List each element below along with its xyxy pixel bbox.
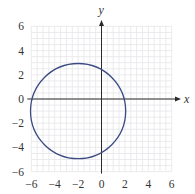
x-tick-label: −2 — [72, 178, 84, 190]
coordinate-plane-chart: −6−4−20246 −6−4−20246 x y — [0, 0, 195, 194]
y-tick-label: −2 — [12, 117, 24, 129]
x-tick-label: 4 — [145, 178, 151, 190]
x-axis-arrow-icon — [175, 97, 181, 102]
y-tick-label: 2 — [18, 69, 24, 81]
y-tick-label: 0 — [18, 93, 24, 105]
x-axis-label: x — [183, 92, 190, 106]
x-tick-label: 2 — [122, 178, 128, 190]
x-tick-labels: −6−4−20246 — [25, 178, 175, 190]
x-tick-label: −4 — [49, 178, 61, 190]
y-axis-arrow-icon — [99, 20, 104, 26]
y-tick-label: −6 — [12, 166, 24, 178]
y-tick-labels: −6−4−20246 — [12, 20, 25, 177]
y-tick-label: −4 — [12, 141, 24, 153]
y-tick-label: 4 — [18, 45, 24, 57]
y-axis-label: y — [98, 3, 105, 17]
x-tick-label: −6 — [25, 178, 37, 190]
y-tick-label: 6 — [18, 20, 24, 32]
x-tick-label: 6 — [169, 178, 175, 190]
x-tick-label: 0 — [99, 178, 105, 190]
